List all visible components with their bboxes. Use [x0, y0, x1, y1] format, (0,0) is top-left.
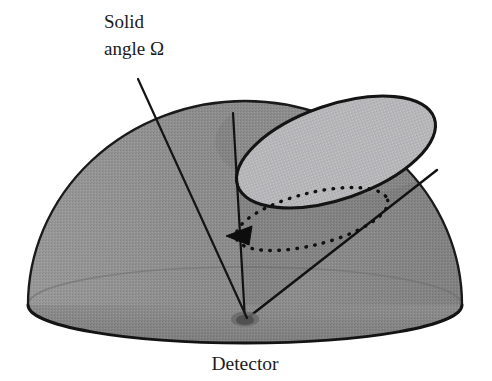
detector-label: Detector: [211, 353, 279, 374]
figure-canvas: Solid angle Ω Detector: [0, 0, 492, 381]
detector-spot-core: [236, 315, 254, 325]
solid-angle-figure: Solid angle Ω Detector: [0, 0, 492, 381]
solid-angle-label-line2: angle Ω: [104, 38, 164, 59]
solid-angle-label-line1: Solid: [104, 11, 145, 32]
